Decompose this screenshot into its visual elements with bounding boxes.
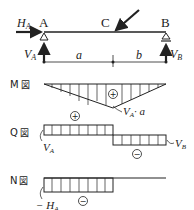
dim-a-label: a — [76, 48, 82, 62]
moment-shape — [44, 84, 166, 108]
shear-positive-block — [44, 125, 113, 135]
svg-text:+: + — [72, 112, 79, 121]
leader-line — [113, 106, 122, 112]
beam-diagram: A C B HA VA VB a b M図 — [0, 0, 194, 210]
leader-line — [40, 187, 43, 199]
dim-b-label: b — [136, 48, 142, 62]
normal-title: N図 — [10, 175, 28, 186]
dim-dot-b — [165, 61, 168, 64]
shear-right-label: VB — [175, 137, 187, 151]
load-arrow-icon — [116, 10, 139, 30]
pin-support-a-icon — [40, 33, 48, 40]
dim-dot-a — [43, 61, 46, 64]
moment-title: M図 — [10, 79, 30, 90]
beam: A C B HA VA VB a b — [16, 10, 182, 67]
point-a-label: A — [39, 15, 49, 30]
shear-positive-hatching — [52, 125, 105, 135]
roller-support-b-icon — [162, 33, 170, 39]
leader-line — [40, 130, 43, 141]
va-label: VA — [24, 47, 36, 62]
moment-diagram: M図 + VA· a — [10, 79, 166, 119]
svg-text:−: − — [134, 150, 141, 159]
shear-title: Q図 — [10, 127, 29, 138]
shear-diagram: Q図 + − VA VB — [10, 112, 187, 160]
normal-negative-block — [44, 178, 113, 192]
leader-line — [167, 140, 174, 144]
shear-left-label: VA — [43, 141, 55, 155]
ha-label: HA — [16, 16, 31, 31]
point-c-label: C — [101, 15, 110, 30]
normal-diagram: N図 − − HA — [10, 175, 166, 210]
normal-hatching — [52, 178, 105, 192]
moment-peak-label: VA· a — [123, 105, 146, 119]
normal-left-label: − HA — [36, 199, 59, 210]
shear-negative-hatching — [122, 135, 158, 145]
svg-text:+: + — [110, 90, 117, 99]
vb-label: VB — [170, 47, 182, 62]
svg-text:−: − — [80, 197, 87, 206]
point-b-label: B — [161, 15, 170, 30]
